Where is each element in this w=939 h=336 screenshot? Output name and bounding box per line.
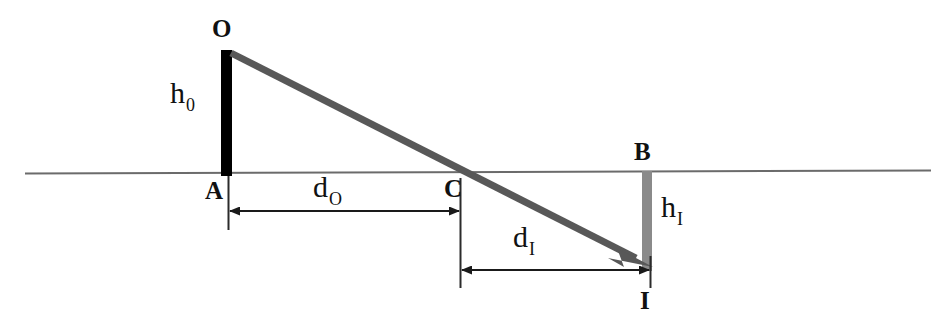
object-bar [221,50,232,176]
object-distance-subscript: O [328,189,342,209]
principal-ray [231,53,636,258]
label-object-top: O [212,16,232,41]
object-height-subscript: 0 [185,95,195,115]
object-distance-base: d [313,170,328,203]
label-image-distance: dI [513,222,535,258]
label-object-height: h0 [170,78,195,114]
principal-axis [25,171,931,174]
image-distance-subscript: I [528,239,535,259]
image-height-base: h [661,190,676,223]
label-image-top: B [634,139,651,164]
label-image-height: hI [661,192,683,228]
image-distance-base: d [513,220,528,253]
image-height-subscript: I [676,209,683,229]
diagram-canvas [0,0,939,336]
label-object-distance: dO [313,172,342,208]
label-object-base: A [205,178,224,203]
label-lens-center: C [444,176,463,201]
optics-ray-diagram: O A C B I h0 dO dI hI [0,0,939,336]
label-image-bottom: I [640,288,650,313]
object-height-base: h [170,76,185,109]
